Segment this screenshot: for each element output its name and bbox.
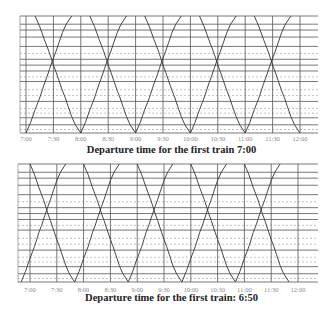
train-path-line: [245, 16, 291, 133]
x-tick-label: 12:00: [293, 135, 308, 142]
train-path-line: [128, 164, 173, 282]
train-path-line: [81, 16, 127, 133]
train-path-line: [35, 16, 81, 133]
x-tick-label: 8:00: [75, 135, 87, 142]
train-path-line: [182, 164, 227, 282]
train-path-line: [84, 164, 129, 282]
caption-bottom: Departure time for the first train: 6:50: [5, 292, 333, 303]
train-path-line: [200, 16, 246, 133]
train-path-line: [90, 16, 136, 133]
x-tick-label: 11:30: [265, 135, 280, 142]
train-paths: [21, 164, 289, 282]
x-tick-label: 8:30: [102, 135, 114, 142]
x-tick-label: 10:30: [210, 135, 225, 142]
train-path-line: [244, 164, 289, 282]
train-path-line: [254, 16, 300, 133]
train-path-line: [191, 164, 236, 282]
train-path-line: [21, 164, 66, 282]
x-tick-label: 9:00: [130, 135, 142, 142]
train-path-line: [75, 164, 120, 282]
train-diagram-top: 7:007:308:008:309:009:3010:0010:3011:001…: [0, 0, 333, 158]
x-tick-label: 11:00: [238, 135, 253, 142]
train-path-line: [30, 164, 75, 282]
x-tick-label: 7:00: [20, 135, 32, 142]
train-path-line: [190, 16, 236, 133]
train-path-line: [145, 16, 191, 133]
train-diagram-top-plot: 7:007:308:008:309:009:3010:0010:3011:001…: [0, 0, 333, 158]
train-path-line: [26, 16, 72, 133]
train-path-line: [236, 164, 281, 282]
x-tick-label: 10:00: [183, 135, 198, 142]
x-tick-label: 9:30: [157, 135, 169, 142]
train-path-line: [137, 164, 182, 282]
x-tick-label: 7:30: [48, 135, 60, 142]
train-path-line: [136, 16, 182, 133]
